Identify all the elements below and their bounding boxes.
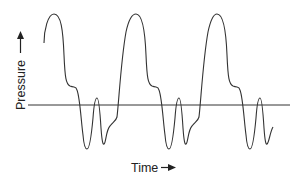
y-axis-label-group: Pressure	[14, 31, 28, 110]
y-axis-label: Pressure	[14, 60, 28, 110]
pressure-time-diagram: Pressure Time	[0, 0, 303, 182]
x-axis-label-group: Time	[131, 161, 176, 175]
pressure-waveform	[44, 14, 273, 149]
x-axis-arrowhead-icon	[168, 164, 176, 171]
x-axis-label: Time	[131, 161, 158, 175]
y-axis-arrowhead-icon	[17, 31, 24, 39]
